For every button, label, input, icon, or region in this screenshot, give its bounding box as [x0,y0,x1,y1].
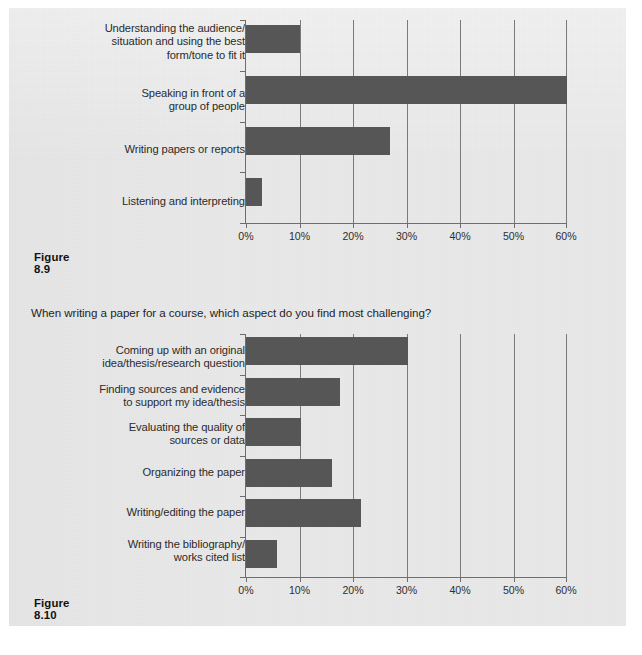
gridline-20 [353,20,354,223]
gridline-40 [460,20,461,223]
figure-caption-8-10: Figure 8.10 [34,597,69,621]
chart-8-9-category-label-0: Understanding the audience/ situation an… [49,22,245,62]
chart-8-9: Understanding the audience/ situation an… [9,8,626,258]
y-tick-3 [240,456,246,457]
y-tick-4 [240,496,246,497]
y-tick-5 [240,537,246,538]
x-tick-10 [300,577,301,582]
x-axis-label-20: 20% [342,584,363,596]
y-tick-0 [240,20,246,21]
x-tick-40 [460,223,461,228]
bar-organizing-paper [246,459,332,487]
chart-8-9-category-label-3: Listening and interpreting [49,195,245,208]
x-tick-40 [460,577,461,582]
bar-listening-interpreting [246,178,262,206]
bar-writing-editing-paper [246,499,361,527]
y-tick-1 [240,71,246,72]
x-axis-label-40: 40% [449,230,470,242]
bar-speaking-in-front [246,76,567,104]
chart-8-10-category-label-3: Organizing the paper [49,466,245,479]
x-axis-label-50: 50% [503,584,524,596]
chart-8-10-category-label-2: Evaluating the quality of sources or dat… [49,421,245,448]
x-tick-50 [514,577,515,582]
y-tick-3 [240,172,246,173]
bar-evaluating-quality [246,418,301,446]
chart-8-9-category-label-2: Writing papers or reports [49,143,245,156]
x-axis-label-0: 0% [238,230,253,242]
chart-8-10-x-axis [240,577,567,578]
y-tick-2 [240,415,246,416]
y-tick-1 [240,375,246,376]
x-axis-label-40: 40% [449,584,470,596]
chart-8-10-category-label-0: Coming up with an original idea/thesis/r… [49,344,245,371]
gridline-60 [566,334,567,577]
chart-8-9-plot-area: 0% 10% 20% 30% 40% 50% 60% [245,20,567,223]
chart-8-10-category-label-1: Finding sources and evidence to support … [49,383,245,410]
chart-8-10-plot-area: 0% 10% 20% 30% 40% 50% 60% [245,334,567,577]
x-axis-label-30: 30% [396,230,417,242]
bar-writing-bibliography [246,540,277,568]
x-tick-0 [246,577,247,582]
figure-caption-8-9: Figure 8.9 [34,251,69,275]
x-tick-20 [353,577,354,582]
x-axis-label-10: 10% [289,230,310,242]
x-tick-10 [300,223,301,228]
bar-coming-up-original-idea [246,337,408,365]
gridline-50 [514,20,515,223]
x-tick-0 [246,223,247,228]
x-tick-50 [514,223,515,228]
chart-8-10-category-label-4: Writing/editing the paper [49,506,245,519]
bar-understanding-audience [246,25,300,53]
x-axis-label-50: 50% [503,230,524,242]
y-tick-0 [240,334,246,335]
gridline-10 [300,20,301,223]
gridline-30 [407,20,408,223]
x-tick-30 [407,223,408,228]
bar-finding-sources [246,378,340,406]
x-axis-label-10: 10% [289,584,310,596]
x-axis-label-60: 60% [555,584,576,596]
chart-8-9-category-label-1: Speaking in front of a group of people [49,87,245,114]
gridline-30 [407,334,408,577]
x-axis-label-60: 60% [555,230,576,242]
gridline-10 [300,334,301,577]
gridline-50 [514,334,515,577]
chart-8-10-category-label-5: Writing the bibliography/ works cited li… [49,538,245,565]
gridline-40 [460,334,461,577]
gridline-20 [353,334,354,577]
x-axis-label-0: 0% [238,584,253,596]
scanned-page: Understanding the audience/ situation an… [9,8,626,626]
chart-8-10: Coming up with an original idea/thesis/r… [9,326,626,611]
chart-8-10-title: When writing a paper for a course, which… [31,306,591,319]
x-axis-label-20: 20% [342,230,363,242]
bar-writing-papers [246,127,390,155]
x-tick-20 [353,223,354,228]
gridline-60 [566,20,567,223]
x-tick-60 [566,223,567,228]
y-tick-2 [240,122,246,123]
x-tick-30 [407,577,408,582]
chart-8-9-x-axis [240,223,567,224]
x-axis-label-30: 30% [396,584,417,596]
x-tick-60 [566,577,567,582]
